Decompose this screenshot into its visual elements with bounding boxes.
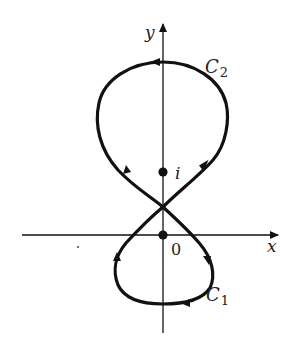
arrow-c2-left-icon [123, 165, 131, 174]
point-i-dot [158, 167, 167, 176]
curve-c1 [115, 207, 213, 304]
origin-dot [158, 230, 167, 239]
c2-label: C2 [205, 56, 228, 80]
origin-label: 0 [171, 240, 181, 259]
y-axis-label: y [144, 22, 155, 42]
point-i-label: i [175, 163, 180, 183]
arrow-c1-bottom-icon [180, 299, 190, 307]
x-axis-label: x [267, 236, 277, 256]
stray-dot [77, 246, 79, 248]
c1-label: C1 [206, 284, 229, 308]
arrow-c2-top-icon [150, 58, 160, 66]
contour-diagram: y x i 0 C2 C1 [0, 0, 295, 348]
